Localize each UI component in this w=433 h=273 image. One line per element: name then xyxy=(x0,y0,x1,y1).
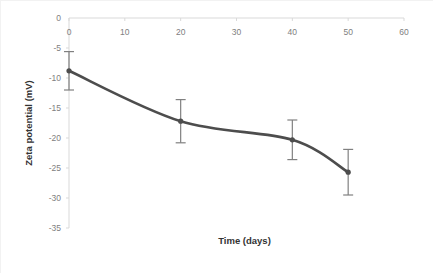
y-tick-label: -30 xyxy=(49,193,62,203)
chart-figure: 0102030405060 0-5-10-15-20-25-30-35 Time… xyxy=(0,0,433,273)
x-tick-label: 50 xyxy=(343,27,353,37)
x-tick-label: 0 xyxy=(67,27,72,37)
x-tick-label: 10 xyxy=(120,27,130,37)
y-axis-title: Zeta potential (mV) xyxy=(23,80,34,166)
x-tick-label: 30 xyxy=(232,27,242,37)
y-tick-label: 0 xyxy=(56,13,61,23)
x-tick-label: 20 xyxy=(176,27,186,37)
y-tick-label: -15 xyxy=(49,103,62,113)
data-point xyxy=(346,170,351,175)
x-axis-title: Time (days) xyxy=(218,235,271,246)
data-point xyxy=(66,68,71,73)
y-tick-label: -10 xyxy=(49,73,62,83)
y-tick-label: -35 xyxy=(49,223,62,233)
y-tick-label: -5 xyxy=(53,43,61,53)
zeta-potential-line-chart: 0102030405060 0-5-10-15-20-25-30-35 Time… xyxy=(1,1,433,273)
data-point xyxy=(290,137,295,142)
y-tick-label: -20 xyxy=(49,133,62,143)
x-tick-label: 40 xyxy=(288,27,298,37)
x-tick-label: 60 xyxy=(399,27,409,37)
y-tick-label: -25 xyxy=(49,163,62,173)
plot-background xyxy=(1,1,433,273)
data-point xyxy=(178,119,183,124)
